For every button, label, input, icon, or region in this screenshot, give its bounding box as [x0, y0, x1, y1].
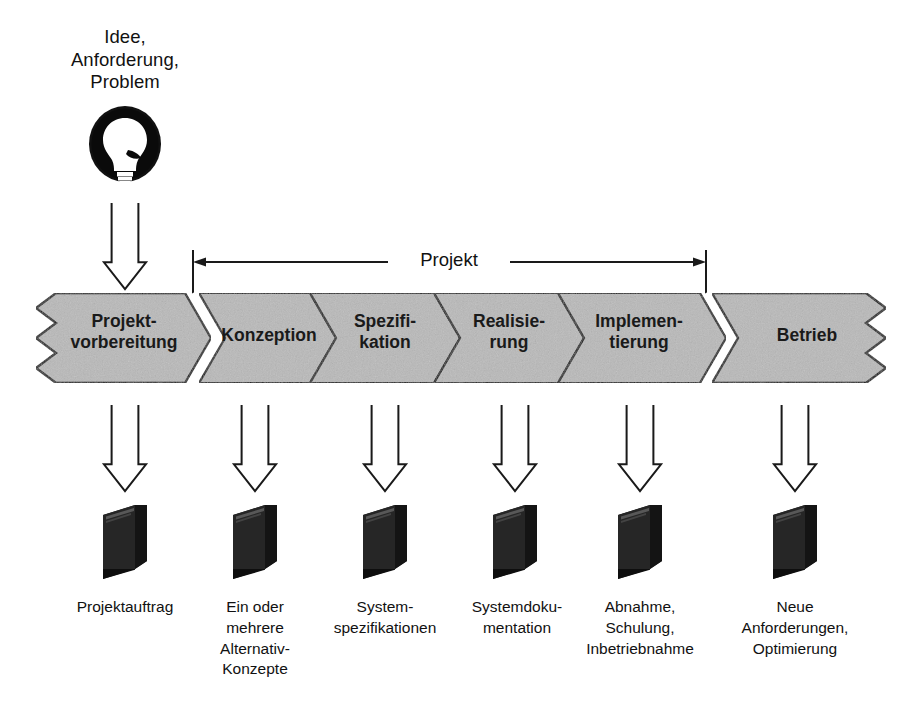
document-stack-icon [773, 505, 817, 579]
caption-line: Ein oder [190, 597, 320, 618]
phase-label-spezifikation: Spezifi- kation [333, 311, 437, 352]
caption-line: Abnahme, [566, 597, 714, 618]
arrow-idea-to-band [104, 203, 146, 289]
document-stack-icon [618, 505, 662, 579]
arrow-konzeption-output [234, 405, 276, 491]
deliverable-caption-alternativ: Ein oder mehrere Alternativ- Konzepte [190, 597, 320, 680]
document-stack-icon [103, 505, 147, 579]
arrow-betrieb-output [774, 405, 816, 491]
source-label-line-2: Anforderung, [35, 49, 215, 72]
source-label: Idee, Anforderung, Problem [35, 26, 215, 94]
deliverable-icons [103, 505, 817, 579]
caption-line: mehrere [190, 618, 320, 639]
phase-label-betrieb: Betrieb [742, 325, 872, 346]
source-label-line-3: Problem [35, 71, 215, 94]
phase-label-line: rung [457, 332, 561, 353]
caption-line: Neue [715, 597, 875, 618]
deliverable-arrows [104, 405, 816, 491]
arrow-implementierung-output [619, 405, 661, 491]
caption-line: Alternativ- [190, 639, 320, 660]
phase-label-line: Implemen- [578, 311, 700, 332]
phase-label-line: Spezifi- [333, 311, 437, 332]
phase-label-line: Realisie- [457, 311, 561, 332]
phase-label-line: Projekt- [60, 311, 188, 332]
document-stack-icon [233, 505, 277, 579]
caption-line: Schulung, [566, 618, 714, 639]
deliverable-caption-neueanford: Neue Anforderungen, Optimierung [715, 597, 875, 659]
phase-label-implementierung: Implemen- tierung [578, 311, 700, 352]
arrow-projektvorbereitung-output [104, 405, 146, 491]
caption-line: Konzepte [190, 659, 320, 680]
caption-line: Optimierung [715, 639, 875, 660]
phase-label-projektvorbereitung: Projekt- vorbereitung [60, 311, 188, 352]
document-stack-icon [363, 505, 407, 579]
phase-label-realisierung: Realisie- rung [457, 311, 561, 352]
caption-line: spezifikationen [315, 618, 455, 639]
arrow-realisierung-output [494, 405, 536, 491]
phase-label-line: Betrieb [742, 325, 872, 346]
caption-line: System- [315, 597, 455, 618]
lightbulb-icon [89, 106, 161, 186]
caption-line: Anforderungen, [715, 618, 875, 639]
phase-label-line: kation [333, 332, 437, 353]
deliverable-caption-projektauftrag: Projektauftrag [50, 597, 200, 618]
deliverable-caption-spezifikationen: System- spezifikationen [315, 597, 455, 639]
phase-label-konzeption: Konzeption [213, 325, 325, 346]
phase-label-line: tierung [578, 332, 700, 353]
arrow-spezifikation-output [364, 405, 406, 491]
phase-label-line: Konzeption [213, 325, 325, 346]
document-stack-icon [493, 505, 537, 579]
projekt-bracket-label: Projekt [399, 249, 499, 272]
caption-line: Projektauftrag [50, 597, 200, 618]
phase-label-line: vorbereitung [60, 332, 188, 353]
caption-line: Inbetriebnahme [566, 639, 714, 660]
source-label-line-1: Idee, [35, 26, 215, 49]
diagram-canvas: Idee, Anforderung, Problem Projekt Proje… [0, 0, 922, 721]
deliverable-caption-abnahme: Abnahme, Schulung, Inbetriebnahme [566, 597, 714, 659]
